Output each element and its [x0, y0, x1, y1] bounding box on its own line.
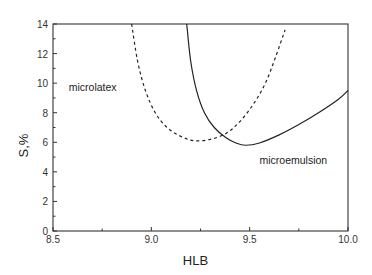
series-line-solid: [187, 24, 348, 145]
x-tick-label: 10.0: [338, 234, 358, 245]
y-tick-label: 0: [42, 226, 48, 237]
x-tick-label: 8.5: [46, 234, 60, 245]
annotation-label: microlatex: [69, 81, 118, 93]
y-axis-label: S,%: [16, 133, 31, 157]
y-tick-label: 8: [42, 108, 48, 119]
x-axis-label: HLB: [183, 253, 208, 268]
y-tick-label: 10: [37, 78, 49, 89]
x-tick-label: 9.5: [243, 234, 257, 245]
y-tick-label: 4: [42, 167, 48, 178]
chart: 8.59.09.510.002468101214HLBS,%microlatex…: [0, 0, 372, 275]
y-tick-label: 2: [42, 196, 48, 207]
series-line-dashed: [132, 24, 285, 141]
y-tick-label: 6: [42, 137, 48, 148]
x-tick-label: 9.0: [144, 234, 158, 245]
plot-frame: [53, 24, 348, 231]
annotation-label: microemulsion: [260, 154, 328, 166]
y-tick-label: 12: [37, 49, 49, 60]
y-tick-label: 14: [37, 19, 49, 30]
